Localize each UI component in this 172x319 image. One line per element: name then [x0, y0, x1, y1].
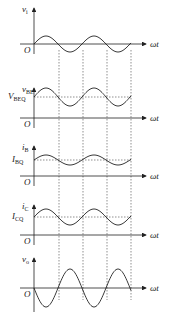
x-axis-label: ωt	[150, 230, 159, 240]
x-axis-label: ωt	[150, 171, 159, 181]
quiescent-label: ICQ	[11, 211, 24, 222]
x-axis-label: ωt	[150, 283, 159, 293]
origin-label: O	[24, 119, 31, 129]
dashed-guide-lines	[59, 50, 131, 300]
panel-vbe: ωtOvBEVBEQ	[8, 84, 159, 129]
y-axis-label: iC	[22, 201, 29, 212]
quiescent-label: IBQ	[11, 154, 24, 165]
x-axis-label: ωt	[150, 39, 159, 49]
origin-label: O	[24, 177, 31, 187]
y-axis-label: vBE	[22, 84, 34, 95]
y-axis-label: vi	[22, 4, 28, 15]
origin-label: O	[24, 289, 31, 299]
panel-vi: ωtOvi	[20, 4, 159, 55]
panel-vo: ωtOvo	[20, 254, 159, 312]
x-axis-label: ωt	[150, 113, 159, 123]
origin-label: O	[24, 45, 31, 55]
origin-label: O	[24, 236, 31, 246]
panel-ic: ωtOiCICQ	[11, 201, 159, 246]
y-axis-label: iB	[22, 142, 29, 153]
panel-ib: ωtOiBIBQ	[11, 142, 159, 187]
waveform-diagram: ωtOviωtOvBEVBEQωtOiBIBQωtOiCICQωtOvo	[0, 0, 172, 319]
y-axis-label: vo	[22, 254, 29, 265]
